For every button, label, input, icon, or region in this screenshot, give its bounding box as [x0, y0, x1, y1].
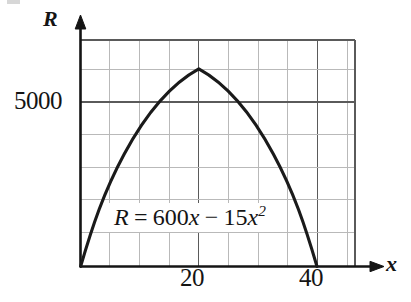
equation-var-quadratic: x — [247, 204, 258, 230]
equation-var-linear: x — [189, 204, 200, 230]
equation-annotation: R=600x−15x2 — [109, 203, 271, 232]
x-axis-arrowhead — [370, 261, 384, 271]
x-tick-label-40: 40 — [299, 265, 323, 290]
equation-exponent: 2 — [258, 202, 266, 219]
y-axis-arrowhead — [75, 15, 86, 29]
x-axis-label: x — [386, 253, 397, 275]
grid-vertical-minor — [110, 40, 348, 267]
chart-canvas — [0, 0, 411, 302]
equation-lhs: R — [114, 204, 129, 230]
y-tick-label-5000: 5000 — [14, 88, 62, 113]
axes — [75, 15, 384, 272]
equation-equals: = — [134, 204, 148, 230]
y-axis-label: R — [43, 8, 58, 30]
equation-coefficient-linear: 600 — [153, 204, 189, 230]
x-tick-label-20: 20 — [180, 265, 204, 290]
figure-container: R x 5000 20 40 R=600x−15x2 — [0, 0, 411, 302]
equation-coefficient-quadratic: 15 — [223, 204, 247, 230]
equation-operator: − — [205, 204, 219, 230]
grid-horizontal-major — [80, 40, 355, 102]
